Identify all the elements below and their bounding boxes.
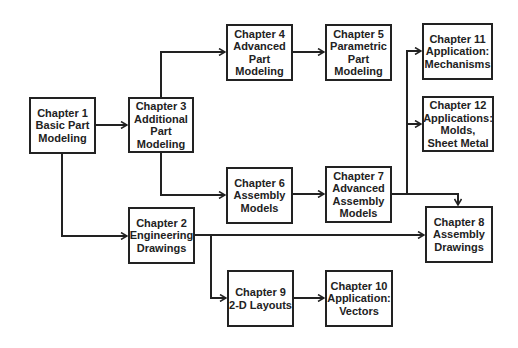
node-label: Chapter 11 [429, 33, 485, 46]
node-label: Assembly [333, 195, 385, 208]
node-label: Modeling [137, 138, 185, 151]
node-label: Part [249, 53, 270, 66]
node-label: Models [241, 202, 279, 215]
node-label: Drawings [137, 242, 187, 255]
node-chapter-4: Chapter 4 Advanced Part Modeling [226, 24, 293, 81]
node-label: Molds, [441, 124, 476, 137]
node-label: Chapter 7 [333, 170, 384, 183]
node-chapter-2: Chapter 2 Engineering Drawings [128, 207, 195, 264]
node-chapter-11: Chapter 11 Application: Mechanisms [422, 23, 493, 80]
node-chapter-12: Chapter 12 Applications: Molds, Sheet Me… [422, 96, 494, 152]
node-label: Chapter 1 [37, 107, 88, 120]
node-label: 2-D Layouts [229, 299, 292, 312]
node-chapter-6: Chapter 6 Assembly Models [226, 167, 293, 224]
node-label: Advanced [233, 40, 286, 53]
node-label: Engineering [130, 229, 194, 242]
node-label: Chapter 9 [235, 286, 286, 299]
node-label: Basic Part [36, 119, 90, 132]
node-label: Application: [327, 292, 391, 305]
node-chapter-7: Chapter 7 Advanced Assembly Models [325, 166, 392, 223]
node-label: Application: [426, 45, 490, 58]
node-chapter-5: Chapter 5 Parametric Part Modeling [325, 24, 392, 81]
node-label: Models [340, 207, 378, 220]
node-label: Modeling [334, 65, 382, 78]
node-label: Assembly [234, 189, 286, 202]
node-label: Chapter 4 [234, 28, 285, 41]
node-label: Applications: [423, 112, 493, 125]
node-label: Mechanisms [424, 58, 490, 71]
node-label: Assembly [433, 228, 485, 241]
node-label: Chapter 3 [136, 100, 187, 113]
node-label: Part [348, 53, 369, 66]
node-label: Part [150, 125, 171, 138]
node-label: Parametric [330, 40, 387, 53]
node-label: Sheet Metal [427, 137, 488, 150]
node-chapter-10: Chapter 10 Application: Vectors [325, 270, 393, 327]
node-label: Chapter 10 [331, 280, 388, 293]
node-label: Modeling [235, 65, 283, 78]
node-label: Chapter 8 [434, 216, 485, 229]
node-label: Modeling [38, 132, 86, 145]
node-label: Additional [134, 113, 188, 126]
node-label: Chapter 12 [430, 99, 487, 112]
node-label: Chapter 5 [333, 28, 384, 41]
node-label: Vectors [339, 305, 379, 318]
node-label: Chapter 2 [136, 217, 187, 230]
node-label: Chapter 6 [234, 177, 285, 190]
node-label: Advanced [332, 182, 385, 195]
node-label: Drawings [434, 241, 484, 254]
node-chapter-8: Chapter 8 Assembly Drawings [425, 206, 493, 263]
node-chapter-9: Chapter 9 2-D Layouts [227, 270, 294, 327]
node-chapter-3: Chapter 3 Additional Part Modeling [128, 97, 194, 153]
node-chapter-1: Chapter 1 Basic Part Modeling [29, 97, 96, 154]
